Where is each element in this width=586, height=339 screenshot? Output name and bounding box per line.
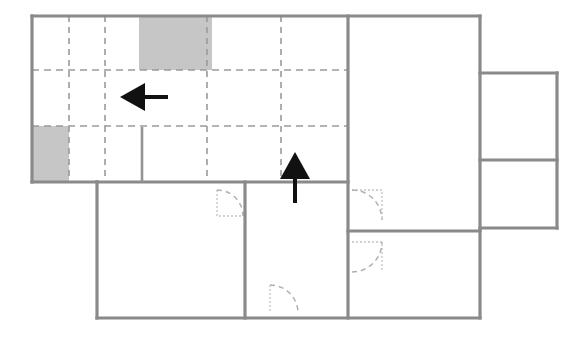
floor-plan-diagram [0,0,586,339]
shaded-cell-left [33,126,69,182]
shaded-cell-top [139,17,212,70]
floor-plan-canvas [0,0,586,339]
